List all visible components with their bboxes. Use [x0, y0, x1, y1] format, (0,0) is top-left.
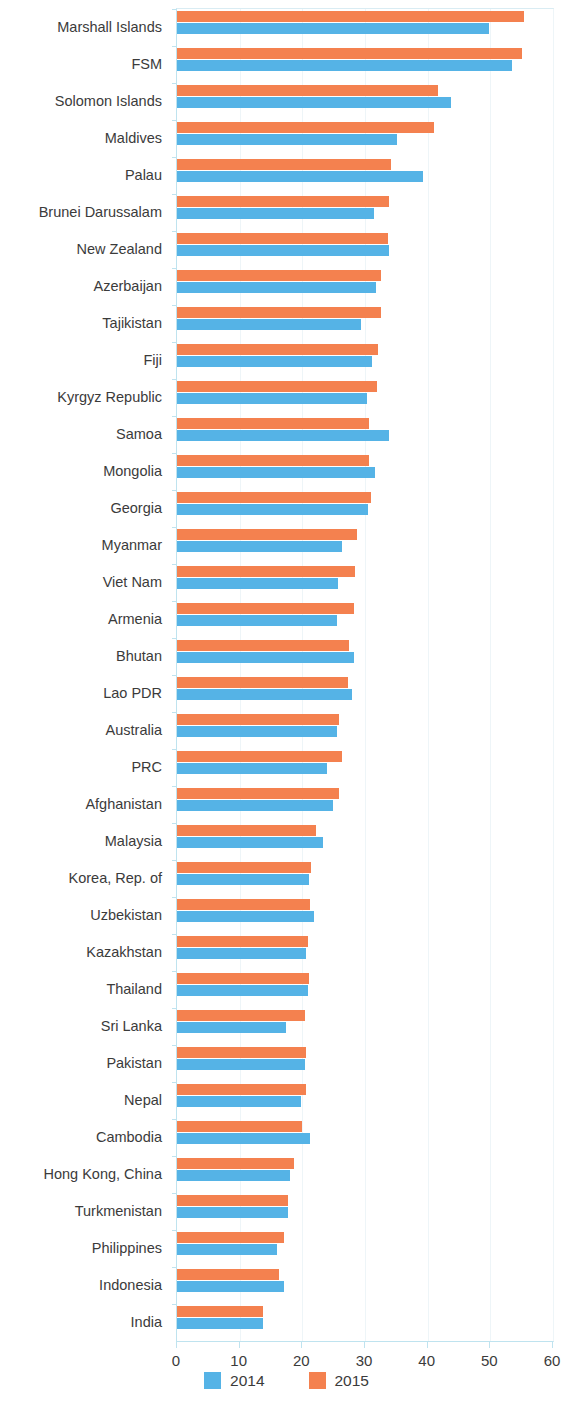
bar-2014: [177, 1022, 286, 1033]
bar-row: [177, 490, 553, 527]
y-axis-tick: [172, 1156, 177, 1157]
x-axis-tick-label: 30: [356, 1352, 373, 1369]
category-label: Afghanistan: [85, 797, 162, 812]
category-label: Indonesia: [99, 1278, 162, 1293]
bar-2015: [177, 1010, 305, 1021]
bar-2014: [177, 1318, 263, 1329]
bar-row: [177, 971, 553, 1008]
bar-2015: [177, 344, 378, 355]
legend-item[interactable]: 2015: [309, 1372, 369, 1389]
bar-2015: [177, 1232, 284, 1243]
bar-2014: [177, 1096, 301, 1107]
category-label: Lao PDR: [103, 686, 162, 701]
bar-2015: [177, 1084, 306, 1095]
category-label: Samoa: [116, 427, 162, 442]
bar-2015: [177, 122, 434, 133]
bar-2015: [177, 862, 311, 873]
bar-row: [177, 83, 553, 120]
bar-2015: [177, 1158, 294, 1169]
bar-2015: [177, 307, 381, 318]
bar-2014: [177, 1244, 277, 1255]
category-label: Turkmenistan: [75, 1204, 162, 1219]
category-label: Maldives: [105, 131, 162, 146]
category-label: Brunei Darussalam: [39, 205, 162, 220]
bar-2015: [177, 603, 354, 614]
y-axis-tick: [172, 379, 177, 380]
bar-2015: [177, 677, 348, 688]
bar-row: [177, 379, 553, 416]
bar-2015: [177, 825, 316, 836]
y-axis-tick: [172, 601, 177, 602]
bar-row: [177, 46, 553, 83]
bar-2015: [177, 640, 349, 651]
bar-2015: [177, 381, 377, 392]
bar-2015: [177, 455, 369, 466]
category-label: Cambodia: [96, 1130, 162, 1145]
bar-2014: [177, 578, 338, 589]
bar-2014: [177, 726, 337, 737]
bar-row: [177, 860, 553, 897]
category-label: Australia: [106, 723, 162, 738]
bar-row: [177, 601, 553, 638]
bar-row: [177, 1304, 553, 1341]
y-axis-tick: [172, 1230, 177, 1231]
bar-2015: [177, 48, 522, 59]
bar-row: [177, 1008, 553, 1045]
bar-2014: [177, 171, 423, 182]
bar-2014: [177, 1281, 284, 1292]
bar-2015: [177, 936, 308, 947]
category-label: Azerbaijan: [93, 279, 162, 294]
y-axis-tick: [172, 786, 177, 787]
legend-item[interactable]: 2014: [204, 1372, 264, 1389]
bar-row: [177, 1267, 553, 1304]
category-label: Korea, Rep. of: [69, 871, 163, 886]
bar-2014: [177, 1170, 290, 1181]
bar-row: [177, 157, 553, 194]
y-axis-tick: [172, 194, 177, 195]
bar-2015: [177, 1121, 302, 1132]
category-label: PRC: [131, 760, 162, 775]
bar-2014: [177, 208, 374, 219]
bar-2014: [177, 911, 314, 922]
y-axis-tick: [172, 490, 177, 491]
category-label: New Zealand: [77, 242, 162, 257]
category-label: Mongolia: [103, 464, 162, 479]
bar-2014: [177, 615, 337, 626]
y-axis-tick: [172, 1193, 177, 1194]
bar-2014: [177, 393, 367, 404]
bar-row: [177, 1230, 553, 1267]
bar-2015: [177, 159, 391, 170]
bar-2015: [177, 492, 371, 503]
category-label: Nepal: [124, 1093, 162, 1108]
bar-row: [177, 564, 553, 601]
bar-2015: [177, 1306, 263, 1317]
category-label: India: [131, 1315, 162, 1330]
bar-2015: [177, 973, 309, 984]
bar-2015: [177, 11, 524, 22]
category-label: Hong Kong, China: [44, 1167, 163, 1182]
category-label: Uzbekistan: [90, 908, 162, 923]
y-axis-tick: [172, 1082, 177, 1083]
bar-row: [177, 934, 553, 971]
y-axis-tick: [172, 305, 177, 306]
bar-2014: [177, 763, 327, 774]
y-axis-tick: [172, 1119, 177, 1120]
bar-row: [177, 268, 553, 305]
bar-2014: [177, 430, 389, 441]
x-axis-tick-label: 40: [418, 1352, 435, 1369]
y-axis-tick: [172, 231, 177, 232]
category-label: Thailand: [106, 982, 162, 997]
y-axis-tick: [172, 120, 177, 121]
category-label: FSM: [131, 57, 162, 72]
y-axis-tick: [172, 860, 177, 861]
y-axis-tick: [172, 823, 177, 824]
category-label: Palau: [125, 168, 162, 183]
bar-2014: [177, 1207, 288, 1218]
bar-2014: [177, 60, 512, 71]
bar-2015: [177, 233, 388, 244]
bar-row: [177, 749, 553, 786]
bar-2014: [177, 689, 352, 700]
bar-2015: [177, 899, 310, 910]
x-axis-tick: [239, 1341, 240, 1348]
category-label: Marshall Islands: [57, 20, 162, 35]
